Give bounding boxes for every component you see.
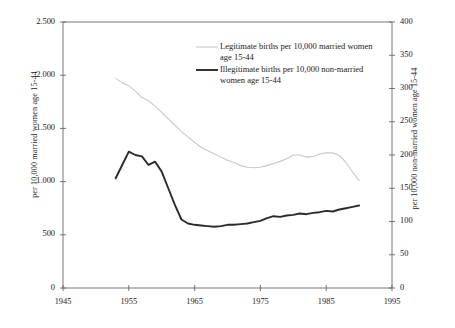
data-series: [116, 78, 359, 226]
legend-swatches: [196, 47, 218, 70]
legend-label-1: Illegitimate births per 10,000 non-marri…: [220, 64, 386, 85]
series-line-0: [116, 78, 359, 180]
legend-label-0: Legitimate births per 10,000 married wom…: [220, 41, 386, 62]
series-line-1: [116, 152, 359, 227]
tick-marks: [60, 22, 395, 291]
chart-container: per 10,000 married women age 15-44 per 1…: [0, 0, 455, 328]
